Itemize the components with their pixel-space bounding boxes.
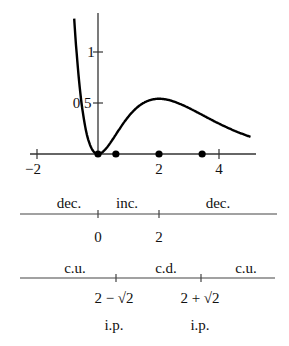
y-tick-label: 1 bbox=[87, 45, 95, 60]
critical-point-label: 0 bbox=[94, 230, 102, 245]
marked-point bbox=[112, 150, 119, 157]
interval-label: dec. bbox=[206, 196, 231, 211]
inflection-point-label: 2 + √2 bbox=[180, 291, 219, 306]
y-tick-label: 0.5 bbox=[73, 96, 92, 111]
marked-point bbox=[155, 150, 162, 157]
inflection-note: i.p. bbox=[104, 318, 123, 333]
inflection-point-label: 2 − √2 bbox=[94, 291, 133, 306]
critical-point-label: 2 bbox=[155, 230, 163, 245]
marked-point bbox=[94, 150, 101, 157]
interval-label: c.u. bbox=[64, 261, 86, 276]
interval-label: c.d. bbox=[155, 261, 177, 276]
graph-canvas bbox=[0, 0, 289, 346]
x-tick-label: 4 bbox=[215, 162, 223, 177]
interval-label: dec. bbox=[57, 196, 82, 211]
x-tick-label: −2 bbox=[25, 162, 41, 177]
inflection-note: i.p. bbox=[190, 318, 209, 333]
marked-point bbox=[199, 150, 206, 157]
x-tick-label: 2 bbox=[155, 162, 163, 177]
interval-label: inc. bbox=[116, 196, 138, 211]
interval-label: c.u. bbox=[235, 261, 257, 276]
function-curve bbox=[74, 19, 250, 154]
